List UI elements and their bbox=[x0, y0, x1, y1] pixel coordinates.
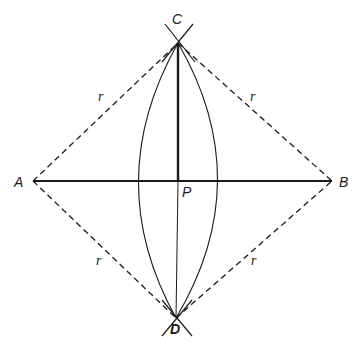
dashed-db bbox=[176, 181, 332, 318]
label-r-lower-right: r bbox=[251, 253, 257, 268]
label-b: B bbox=[339, 174, 348, 190]
segment-pd bbox=[176, 181, 178, 318]
dashed-cb bbox=[178, 43, 332, 181]
label-r-upper-right: r bbox=[250, 89, 256, 104]
label-r-upper-left: r bbox=[98, 89, 104, 104]
dashed-ac bbox=[33, 43, 178, 181]
label-c: C bbox=[172, 11, 183, 27]
dashed-ad bbox=[33, 181, 176, 318]
label-a: A bbox=[13, 174, 23, 190]
label-r-lower-left: r bbox=[96, 253, 102, 268]
label-d: D bbox=[170, 321, 180, 337]
diagram-canvas: C D A B P r r r r bbox=[0, 0, 360, 351]
arc-tick-c-left bbox=[165, 24, 195, 62]
perpendicular-bisector-diagram: C D A B P r r r r bbox=[0, 0, 360, 351]
label-p: P bbox=[182, 184, 192, 200]
